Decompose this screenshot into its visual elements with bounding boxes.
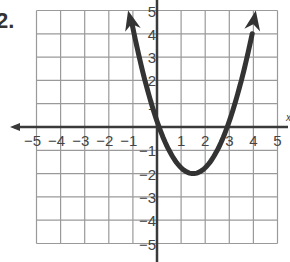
svg-text:5: 5 — [148, 3, 156, 20]
svg-text:−4: −4 — [48, 132, 65, 149]
svg-text:4: 4 — [148, 26, 156, 43]
svg-text:−5: −5 — [24, 132, 41, 149]
svg-text:−3: −3 — [72, 132, 89, 149]
svg-text:−1: −1 — [139, 142, 156, 159]
svg-text:5: 5 — [273, 132, 281, 149]
svg-text:1: 1 — [177, 132, 185, 149]
coordinate-plane-graph: x −5−4−3−2−11234554321−1−2−3−4−5 — [0, 0, 290, 262]
svg-text:−2: −2 — [139, 166, 156, 183]
svg-text:2: 2 — [201, 132, 209, 149]
svg-text:x: x — [285, 112, 290, 123]
svg-text:−3: −3 — [139, 189, 156, 206]
svg-text:3: 3 — [148, 49, 156, 66]
svg-text:−2: −2 — [96, 132, 113, 149]
svg-text:−5: −5 — [139, 236, 156, 253]
svg-text:4: 4 — [249, 132, 257, 149]
svg-text:−1: −1 — [120, 132, 137, 149]
svg-text:−4: −4 — [139, 212, 156, 229]
